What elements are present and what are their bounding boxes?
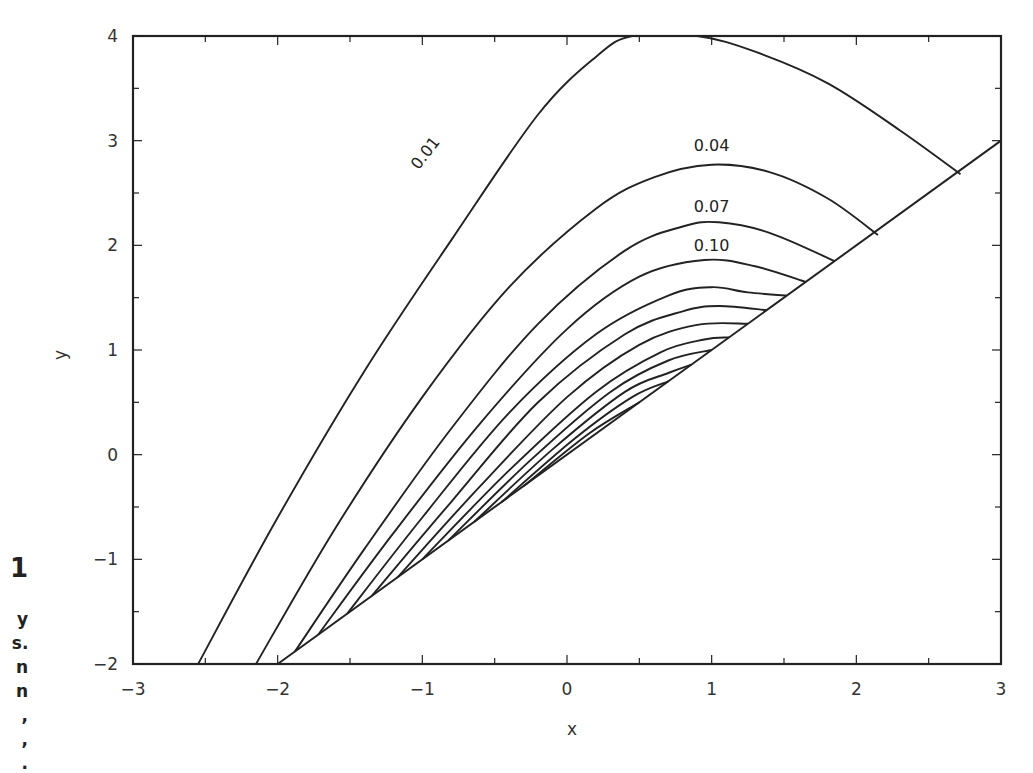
- contour-labels: 0.010.040.070.10: [407, 133, 730, 254]
- contour-label: 0.04: [694, 136, 730, 155]
- x-axis-title: x: [567, 719, 577, 739]
- x-tick-label: −3: [120, 679, 145, 699]
- axis-ticks: −3−2−10123−2−101234: [93, 26, 1006, 699]
- plot-frame: [133, 36, 1001, 664]
- boundary-line: [278, 141, 1001, 664]
- y-tick-label: 0: [107, 445, 118, 465]
- contour-lines: [198, 34, 960, 664]
- contour-line-0-10: [318, 260, 806, 635]
- x-tick-label: 0: [562, 679, 573, 699]
- contour-line-0-01: [198, 34, 960, 664]
- y-axis-title: y: [50, 350, 70, 360]
- y-tick-label: 4: [107, 26, 118, 46]
- contour-label: 0.10: [694, 236, 730, 255]
- y-tick-label: 3: [107, 131, 118, 151]
- contour-line-0-07: [295, 222, 835, 652]
- x-tick-label: −2: [265, 679, 290, 699]
- y-tick-label: 1: [107, 340, 118, 360]
- caption-line: .: [22, 753, 28, 773]
- y-tick-label: −2: [93, 654, 118, 674]
- contour-label: 0.01: [407, 133, 444, 173]
- x-tick-label: −1: [410, 679, 435, 699]
- contour-label: 0.07: [694, 197, 730, 216]
- x-tick-label: 3: [996, 679, 1007, 699]
- x-tick-label: 2: [851, 679, 862, 699]
- x-tick-label: 1: [706, 679, 717, 699]
- y-tick-label: 2: [107, 235, 118, 255]
- y-tick-label: −1: [93, 549, 118, 569]
